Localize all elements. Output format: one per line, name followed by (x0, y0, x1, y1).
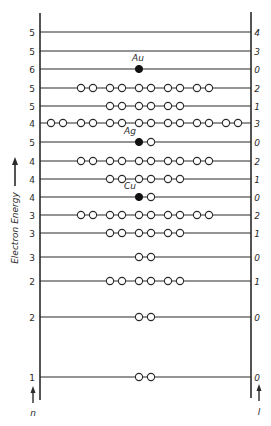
electron-energy-axis-label: Electron Energy (10, 157, 20, 264)
empty-electron-icon (106, 102, 113, 109)
empty-electron-icon (59, 119, 66, 126)
empty-electron-icon (106, 157, 113, 164)
empty-electron-icon (106, 84, 113, 91)
empty-electron-icon (193, 211, 200, 218)
empty-electron-icon (135, 211, 142, 218)
empty-electron-icon (135, 175, 142, 182)
empty-electron-icon (205, 211, 212, 218)
energy-level: 20 (29, 313, 260, 323)
l-axis-label: l (258, 407, 261, 417)
empty-electron-icon (135, 84, 142, 91)
empty-electron-icon (89, 119, 96, 126)
empty-electron-icon (118, 211, 125, 218)
energy-level-diagram: 545360Au52514350Ag424140Cu323130212010 E… (0, 0, 271, 426)
filled-electron-icon (135, 65, 142, 72)
empty-electron-icon (205, 157, 212, 164)
empty-electron-icon (193, 157, 200, 164)
empty-electron-icon (164, 211, 171, 218)
empty-electron-icon (164, 157, 171, 164)
energy-level: 42 (29, 157, 260, 167)
filled-electron-icon (135, 193, 142, 200)
empty-electron-icon (106, 277, 113, 284)
l-label: 3 (254, 47, 260, 57)
empty-electron-icon (135, 253, 142, 260)
n-label: 5 (29, 84, 35, 94)
empty-electron-icon (193, 84, 200, 91)
l-label: 1 (254, 229, 260, 239)
empty-electron-icon (193, 119, 200, 126)
n-arrowhead-icon (31, 386, 36, 393)
l-label: 2 (254, 211, 260, 221)
energy-level: 54 (29, 28, 260, 38)
l-label: 0 (254, 373, 260, 383)
n-label: 6 (29, 65, 35, 75)
empty-electron-icon (147, 175, 154, 182)
energy-level: 51 (29, 102, 260, 112)
l-label: 1 (254, 277, 260, 287)
empty-electron-icon (89, 84, 96, 91)
empty-electron-icon (147, 193, 154, 200)
n-label: 5 (29, 138, 35, 148)
n-label: 2 (29, 277, 35, 287)
empty-electron-icon (106, 175, 113, 182)
n-label: 4 (29, 119, 35, 129)
empty-electron-icon (135, 373, 142, 380)
empty-electron-icon (77, 157, 84, 164)
n-label: 3 (29, 253, 35, 263)
l-label: 0 (254, 65, 260, 75)
energy-level: 32 (29, 211, 260, 221)
element-label-au: Au (131, 53, 144, 63)
l-label: 2 (254, 84, 260, 94)
empty-electron-icon (176, 229, 183, 236)
energy-level: 21 (29, 277, 260, 287)
empty-electron-icon (147, 102, 154, 109)
empty-electron-icon (147, 157, 154, 164)
empty-electron-icon (106, 119, 113, 126)
empty-electron-icon (106, 211, 113, 218)
n-axis-label: n (30, 408, 36, 418)
empty-electron-icon (164, 175, 171, 182)
l-label: 3 (254, 119, 260, 129)
energy-level: 30 (29, 253, 260, 263)
energy-level: 50Ag (29, 126, 260, 148)
n-label: 2 (29, 313, 35, 323)
n-label: 4 (29, 175, 35, 185)
empty-electron-icon (89, 157, 96, 164)
l-label: 0 (254, 313, 260, 323)
empty-electron-icon (118, 84, 125, 91)
empty-electron-icon (147, 253, 154, 260)
energy-level: 60Au (29, 53, 260, 75)
n-label: 5 (29, 47, 35, 57)
energy-level: 52 (29, 84, 260, 94)
arrowhead-icon (12, 157, 18, 165)
empty-electron-icon (164, 229, 171, 236)
empty-electron-icon (77, 211, 84, 218)
l-label: 0 (254, 193, 260, 203)
empty-electron-icon (135, 157, 142, 164)
empty-electron-icon (77, 84, 84, 91)
electron-energy-label: Electron Energy (10, 192, 20, 264)
n-label: 5 (29, 102, 35, 112)
empty-electron-icon (164, 102, 171, 109)
empty-electron-icon (47, 119, 54, 126)
empty-electron-icon (147, 229, 154, 236)
empty-electron-icon (205, 84, 212, 91)
n-label: 3 (29, 229, 35, 239)
empty-electron-icon (147, 119, 154, 126)
l-label: 1 (254, 175, 260, 185)
empty-electron-icon (89, 211, 96, 218)
l-label: 2 (254, 157, 260, 167)
empty-electron-icon (135, 102, 142, 109)
l-label: 1 (254, 102, 260, 112)
empty-electron-icon (234, 119, 241, 126)
empty-electron-icon (147, 84, 154, 91)
empty-electron-icon (164, 119, 171, 126)
empty-electron-icon (147, 138, 154, 145)
empty-electron-icon (176, 119, 183, 126)
element-label-cu: Cu (124, 181, 136, 191)
empty-electron-icon (164, 277, 171, 284)
energy-level: 53 (29, 47, 260, 57)
empty-electron-icon (135, 229, 142, 236)
empty-electron-icon (176, 102, 183, 109)
empty-electron-icon (135, 119, 142, 126)
